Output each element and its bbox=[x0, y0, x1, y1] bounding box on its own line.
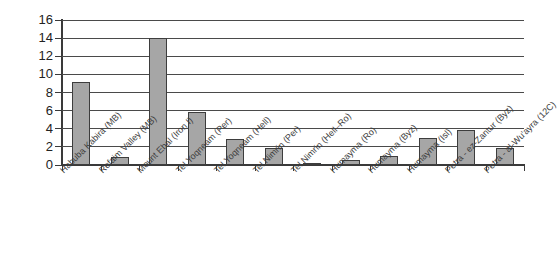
x-axis-tick bbox=[139, 166, 140, 171]
gridline bbox=[62, 74, 524, 75]
x-axis-tick bbox=[178, 166, 179, 171]
y-axis-tick bbox=[55, 92, 62, 93]
x-axis-tick bbox=[486, 166, 487, 171]
x-axis-tick bbox=[524, 166, 525, 171]
gridline bbox=[62, 20, 524, 21]
y-axis-tick bbox=[55, 56, 62, 57]
gridline bbox=[62, 110, 524, 111]
y-axis-tick-label: 14 bbox=[3, 31, 53, 44]
y-axis-tick-label: 8 bbox=[3, 86, 53, 99]
x-axis-tick bbox=[409, 166, 410, 171]
x-axis-tick bbox=[370, 166, 371, 171]
x-axis-tick bbox=[101, 166, 102, 171]
x-axis-labels: Habuba Kabira (MB)Refaim Valley (MB)Moun… bbox=[0, 168, 542, 276]
gridline bbox=[62, 92, 524, 93]
x-axis-tick bbox=[216, 166, 217, 171]
y-axis-labels: 0246810121416 bbox=[0, 0, 53, 180]
x-axis-tick bbox=[255, 166, 256, 171]
y-axis-tick-label: 4 bbox=[3, 122, 53, 135]
y-axis-tick bbox=[55, 128, 62, 129]
y-axis-tick-label: 12 bbox=[3, 49, 53, 62]
y-axis-tick-label: 16 bbox=[3, 13, 53, 26]
x-axis-tick bbox=[293, 166, 294, 171]
y-axis-tick bbox=[55, 38, 62, 39]
y-axis-tick bbox=[55, 146, 62, 147]
y-axis-tick bbox=[55, 110, 62, 111]
gridline bbox=[62, 56, 524, 57]
y-axis-tick bbox=[55, 165, 62, 166]
x-axis-tick bbox=[332, 166, 333, 171]
gridline bbox=[62, 38, 524, 39]
y-axis-tick bbox=[55, 74, 62, 75]
y-axis-tick bbox=[55, 20, 62, 21]
x-axis-tick bbox=[447, 166, 448, 171]
x-axis-tick bbox=[62, 166, 63, 171]
y-axis-tick-label: 2 bbox=[3, 140, 53, 153]
y-axis-tick-label: 6 bbox=[3, 104, 53, 117]
y-axis-tick-label: 10 bbox=[3, 67, 53, 80]
